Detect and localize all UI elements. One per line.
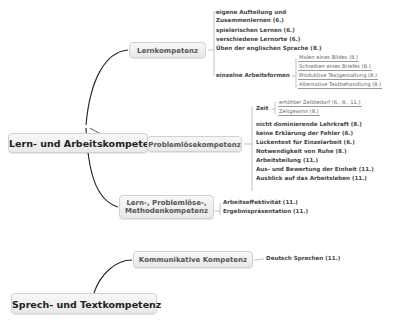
root-node-lern-arbeitskompetenz[interactable]: Lern- und Arbeitskompetenz [8, 133, 148, 153]
root-label: Sprech- und Textkompetenz [12, 299, 161, 310]
branch-node-lernkompetenz[interactable]: Lernkompetenz [129, 42, 206, 58]
leaf-item[interactable]: verschiedene Lernorte (6.) [216, 36, 300, 43]
leaf-item[interactable]: Zusammenlernen (6.) [216, 17, 284, 24]
branch-label: Kommunikative Kompetenz [139, 256, 247, 264]
leaf-item[interactable]: Üben der englischen Sprache (8.) [216, 45, 321, 52]
collapse-indicator-icon[interactable]: … [160, 300, 164, 305]
sub-item[interactable]: Produktive Textgestaltung (8.) [298, 73, 378, 80]
leaf-item[interactable]: Zeit [256, 105, 268, 112]
root-label: Lern- und Arbeitskompetenz [9, 138, 162, 149]
leaf-item[interactable]: Arbeitseffektivität (11.) [223, 199, 298, 206]
sub-item[interactable]: Zeitgewinn (8.) [278, 109, 320, 116]
branch-node-problemloesekompetenz[interactable]: Problemlösekompetenz [147, 136, 242, 152]
branch-label: Lernkompetenz [137, 47, 198, 55]
sub-item[interactable]: erhöhter Zeitbedarf (6., 8., 11.) [278, 100, 362, 107]
leaf-item[interactable]: spielerischen Lernen (6.) [216, 27, 295, 34]
branch-label: Problemlösekompetenz [148, 141, 240, 149]
leaf-item[interactable]: Ausblick auf das Arbeitsleben (11.) [256, 175, 367, 182]
branch-node-kommunikative-kompetenz[interactable]: Kommunikative Kompetenz [133, 251, 253, 268]
leaf-item[interactable]: Deutsch Sprechen (11.) [266, 255, 340, 262]
sub-item[interactable]: Alternative Textbehandlung (8.) [298, 82, 382, 89]
leaf-item[interactable]: Aus- und Bewertung der Einheit (11.) [256, 166, 374, 173]
branch-node-methodenkompetenz[interactable]: Lern-, Problemlöse-, Methodenkompetenz [119, 195, 214, 219]
leaf-item[interactable]: Lückentext für Einzelarbeit (6.) [256, 139, 355, 146]
leaf-item[interactable]: Arbeitsteilung (11.) [256, 157, 318, 164]
leaf-item[interactable]: keine Erklärung der Fehler (6.) [256, 130, 353, 137]
sub-item[interactable]: Schreiben eines Briefes (8.) [298, 64, 372, 71]
leaf-item[interactable]: Notwendigkeit von Ruhe (8.) [256, 148, 347, 155]
leaf-item[interactable]: eigene Aufteilung und [216, 9, 286, 16]
leaf-item[interactable]: Ergebnispräsentation (11.) [223, 208, 308, 215]
sub-item[interactable]: Malen eines Bildes (8.) [298, 55, 359, 62]
branch-label-line2: Methodenkompetenz [120, 207, 213, 215]
branch-label-line1: Lern-, Problemlöse-, [120, 199, 213, 207]
leaf-item[interactable]: nicht dominierende Lehrkraft (8.) [256, 121, 362, 128]
root-node-sprech-textkompetenz[interactable]: Sprech- und Textkompetenz [11, 293, 157, 314]
leaf-item[interactable]: einzelne Arbeitsformen [216, 72, 290, 79]
